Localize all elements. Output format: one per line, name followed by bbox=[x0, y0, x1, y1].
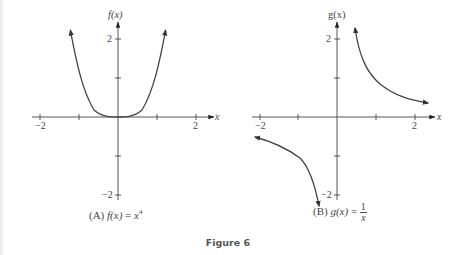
panel-b-xlabel: x bbox=[437, 112, 441, 122]
caption-b-lhs: g(x) bbox=[330, 205, 348, 217]
panel-a-axes bbox=[32, 22, 214, 200]
caption-a-prefix: (A) bbox=[89, 209, 104, 221]
panel-b-xtick-2: 2 bbox=[412, 121, 417, 131]
panel-b-ytick-2: 2 bbox=[326, 34, 331, 44]
caption-b-eq: = bbox=[351, 205, 357, 217]
figure-plots bbox=[0, 0, 456, 255]
caption-a-lhs: f(x) bbox=[107, 209, 122, 221]
caption-b-prefix: (B) bbox=[313, 205, 328, 217]
panel-b-xtick-neg2: −2 bbox=[255, 121, 266, 131]
caption-b-fraction: 1 x bbox=[360, 202, 367, 223]
curve-reciprocal-positive bbox=[355, 28, 428, 103]
panel-a-ylabel: f(x) bbox=[108, 10, 123, 21]
caption-a-exp: 4 bbox=[139, 208, 143, 216]
panel-b-caption: (B) g(x) = 1 x bbox=[313, 202, 367, 223]
panel-b-ylabel: g(x) bbox=[328, 10, 346, 21]
curve-reciprocal-negative bbox=[255, 137, 319, 206]
panel-b-ytick-neg2: −2 bbox=[321, 190, 332, 200]
panel-a-xtick-2: 2 bbox=[193, 121, 198, 131]
caption-a-eq: = bbox=[125, 209, 131, 221]
panel-a-xlabel: x bbox=[215, 112, 219, 122]
caption-b-denominator: x bbox=[360, 213, 367, 223]
panel-a-xtick-neg2: −2 bbox=[35, 121, 46, 131]
panel-a-caption: (A) f(x) = x4 bbox=[89, 208, 142, 221]
panel-a-ytick-2: 2 bbox=[107, 34, 112, 44]
panel-a-ytick-neg2: −2 bbox=[102, 190, 113, 200]
panel-b-axes bbox=[252, 22, 435, 200]
figure-title: Figure 6 bbox=[0, 237, 456, 248]
